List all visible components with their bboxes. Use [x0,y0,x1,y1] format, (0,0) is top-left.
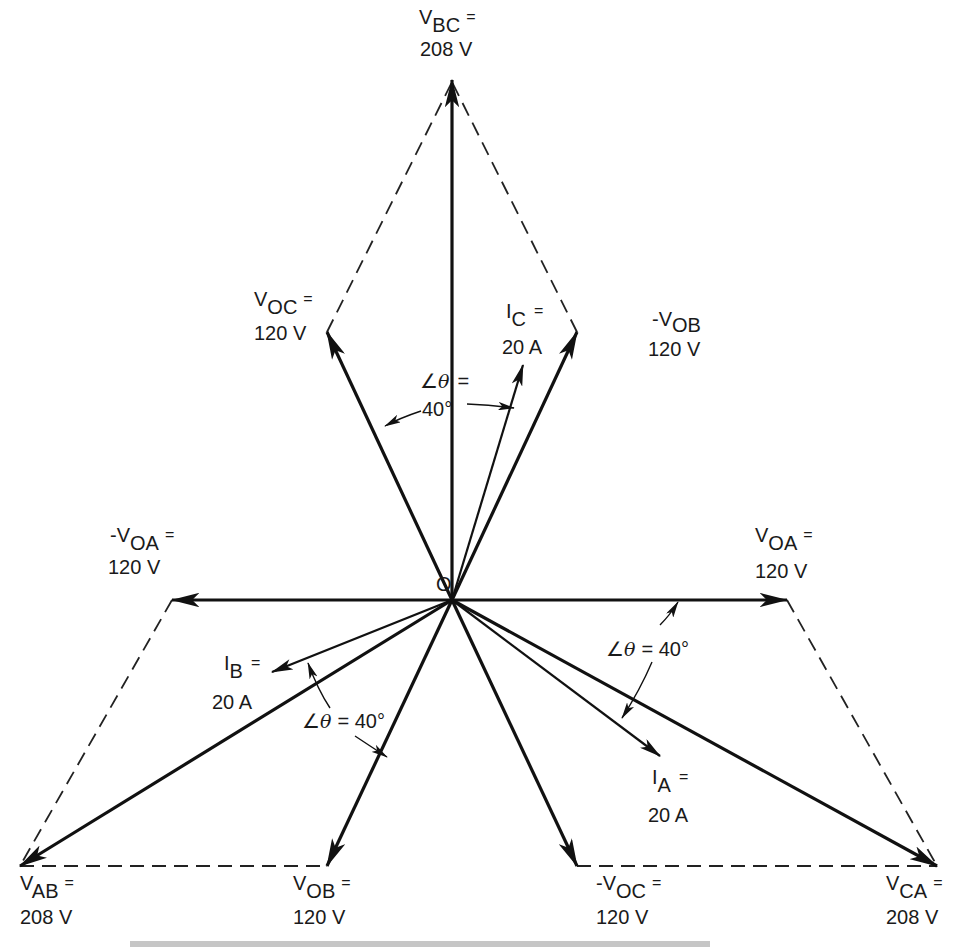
angle-arrow-top-left [385,411,421,426]
label-neg-voc: -VOC= 120 V [596,872,661,928]
svg-text:120 V: 120 V [755,560,808,582]
svg-text:120 V: 120 V [108,556,161,578]
svg-text:VCA=: VCA= [886,872,942,902]
angle-label-right: ∠θ= 40° [606,638,689,660]
label-vbc: VBC= 208 V [419,6,475,60]
svg-text:208 V: 208 V [420,38,473,60]
svg-text:-VOC=: -VOC= [596,872,661,902]
label-vob: VOB= 120 V [293,872,351,928]
svg-text:20 A: 20 A [212,691,253,713]
dash-vob-to-vbc [452,82,577,332]
angle-labels: ∠θ= 40° ∠θ= 40° ∠θ= 40° [302,370,689,732]
svg-text:20 A: 20 A [502,336,543,358]
phasor-diagram: O VBC= 208 V VOC= 120 V -VOB 120 V IC= 2… [0,0,975,947]
current-phasors [272,365,660,756]
voltage-phasors [20,80,937,866]
svg-text:40°: 40° [422,398,452,420]
angle-arrow-right-down [622,662,652,718]
svg-text:IC=: IC= [506,300,543,330]
svg-text:∠θ= 40°: ∠θ= 40° [606,638,689,660]
svg-text:VBC=: VBC= [419,6,475,36]
construction-lines [20,82,937,866]
svg-text:VAB=: VAB= [20,872,74,902]
phasor-labels: VBC= 208 V VOC= 120 V -VOB 120 V IC= 20 … [20,6,942,928]
svg-text:IB=: IB= [224,652,260,682]
svg-text:120 V: 120 V [254,322,307,344]
label-ic: IC= 20 A [502,300,543,358]
phasor-vca [452,600,937,866]
angle-arrow-top-right [467,404,514,408]
label-ib: IB= 20 A [212,652,260,713]
phasor-ia [452,600,660,756]
svg-text:20 A: 20 A [648,804,689,826]
label-vab: VAB= 208 V [20,872,74,928]
svg-text:-VOB: -VOB [652,308,701,336]
svg-text:120 V: 120 V [648,338,701,360]
angle-annotations [308,404,678,757]
label-neg-vob: -VOB 120 V [648,308,701,360]
clipped-caption-remnant [130,941,710,947]
angle-arrow-right-up [660,602,678,625]
label-ia: IA= 20 A [648,766,689,826]
svg-text:∠θ=: ∠θ= [420,370,469,392]
svg-text:VOB=: VOB= [293,872,351,902]
phasor-vab [20,600,452,866]
svg-text:VOA=: VOA= [755,524,813,554]
label-voa: VOA= 120 V [755,524,813,582]
phasor-neg-voc [452,600,577,866]
svg-text:120 V: 120 V [293,906,346,928]
label-neg-voa: -VOA= 120 V [108,524,174,578]
phasor-neg-vob [452,332,577,600]
svg-text:208 V: 208 V [886,906,939,928]
label-vca: VCA= 208 V [886,872,942,928]
svg-text:∠θ= 40°: ∠θ= 40° [302,710,385,732]
svg-text:120 V: 120 V [596,906,649,928]
dash-voc-to-vbc [327,82,452,332]
angle-label-top: ∠θ= 40° [420,370,469,420]
svg-text:-VOA=: -VOA= [110,524,174,554]
svg-text:IA=: IA= [652,766,688,796]
angle-label-left: ∠θ= 40° [302,710,385,732]
dash-voa-neg-to-vab [20,600,172,866]
phasor-ic [452,365,523,600]
origin-label: O [436,573,452,595]
svg-text:208 V: 208 V [20,906,73,928]
label-voc: VOC= 120 V [254,288,313,344]
svg-text:VOC=: VOC= [254,288,313,318]
